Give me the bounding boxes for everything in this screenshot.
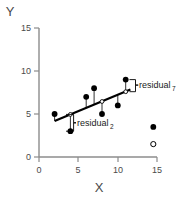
data-point bbox=[115, 103, 121, 109]
data-point bbox=[99, 111, 105, 117]
data-point bbox=[91, 85, 97, 91]
fitted-marker bbox=[100, 100, 104, 104]
y-tick-label-15: 15 bbox=[21, 23, 31, 33]
outlier-filled-point bbox=[150, 124, 156, 130]
x-tick-label-15: 15 bbox=[152, 165, 162, 175]
y-tick-label-0: 0 bbox=[26, 152, 31, 162]
residual-2-label: residual bbox=[77, 118, 109, 128]
x-tick-label-10: 10 bbox=[113, 165, 123, 175]
y-tick-label-5: 5 bbox=[26, 109, 31, 119]
y-tick-label-10: 10 bbox=[21, 66, 31, 76]
y-axis-title: Y bbox=[6, 4, 15, 19]
scatter-plot-figure: 15 10 5 0 0 5 10 15 Y X bbox=[0, 0, 186, 199]
x-tick-label-0: 0 bbox=[36, 165, 41, 175]
residual-7-subscript: 7 bbox=[172, 85, 176, 92]
x-axis-title: X bbox=[95, 180, 104, 195]
tick-label-group: 15 10 5 0 0 5 10 15 bbox=[21, 23, 162, 175]
x-tick-label-5: 5 bbox=[75, 165, 80, 175]
data-point bbox=[83, 94, 89, 100]
axes-group bbox=[34, 28, 157, 162]
outlier-open-point bbox=[151, 142, 156, 147]
fitted-marker bbox=[124, 90, 128, 94]
plot-canvas: 15 10 5 0 0 5 10 15 Y X bbox=[0, 0, 186, 199]
residual-2-subscript: 2 bbox=[110, 123, 114, 130]
residual-7-brace bbox=[130, 80, 139, 92]
residual-7-label: residual bbox=[139, 80, 171, 90]
data-point bbox=[52, 111, 58, 117]
data-point bbox=[123, 77, 129, 83]
